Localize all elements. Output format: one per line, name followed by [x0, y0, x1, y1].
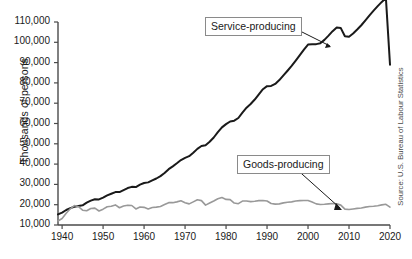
- y-tick-label: 50,000: [0, 137, 50, 148]
- y-tick-label: 80,000: [0, 76, 50, 87]
- y-tick-label: 30,000: [0, 177, 50, 188]
- annotation-goods-producing: Goods-producing: [237, 155, 330, 174]
- annotation-service-producing: Service-producing: [205, 17, 302, 36]
- x-tick-label: 1960: [122, 231, 166, 242]
- x-tick-label: 2020: [368, 231, 412, 242]
- x-tick-label: 2010: [327, 231, 371, 242]
- x-tick-label: 1980: [204, 231, 248, 242]
- annotation-leader-lines: [293, 31, 342, 210]
- y-tick-label: 20,000: [0, 198, 50, 209]
- y-tick-label: 40,000: [0, 157, 50, 168]
- y-tick-label: 110,000: [0, 15, 50, 26]
- x-tick-label: 1940: [40, 231, 84, 242]
- chart-container: Thousands of persons Source: U.S. Bureau…: [0, 0, 412, 259]
- x-tick-label: 1950: [81, 231, 125, 242]
- y-tick-label: 10,000: [0, 218, 50, 229]
- x-tick-label: 1970: [163, 231, 207, 242]
- y-tick-label: 60,000: [0, 117, 50, 128]
- x-tick-label: 2000: [286, 231, 330, 242]
- x-tick-label: 1990: [245, 231, 289, 242]
- y-tick-label: 90,000: [0, 56, 50, 67]
- y-tick-label: 70,000: [0, 96, 50, 107]
- plot-area: [0, 0, 412, 259]
- y-tick-label: 100,000: [0, 35, 50, 46]
